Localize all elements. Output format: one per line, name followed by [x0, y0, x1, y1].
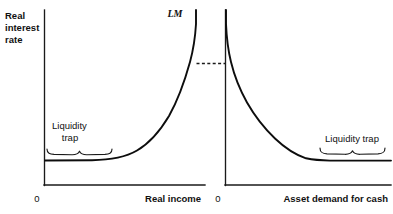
left-origin-label: 0 [34, 193, 39, 204]
left-liquidity-trap-label-line1: Liquidity [52, 120, 87, 131]
left-y-axis-label-line1: Real [5, 10, 25, 21]
left-x-axis-label: Real income [145, 193, 201, 204]
right-liquidity-trap-label: Liquidity trap [325, 133, 379, 144]
right-x-axis-label: Asset demand for cash [283, 193, 388, 204]
lm-curve-label: LM [167, 8, 184, 19]
liquidity-trap-diagram: Liquidity trap Real interest rate LM 0 R… [0, 0, 393, 214]
left-y-axis-label-line3: rate [5, 34, 22, 45]
right-liquidity-trap-brace [320, 148, 385, 154]
left-panel: Liquidity trap Real interest rate LM 0 R… [5, 8, 205, 204]
left-y-axis-label-line2: interest [5, 22, 40, 33]
left-liquidity-trap-label-line2: trap [62, 132, 78, 143]
left-liquidity-trap-brace [47, 149, 112, 155]
right-origin-label: 0 [215, 193, 220, 204]
right-panel: Liquidity trap 0 Asset demand for cash [215, 10, 391, 204]
